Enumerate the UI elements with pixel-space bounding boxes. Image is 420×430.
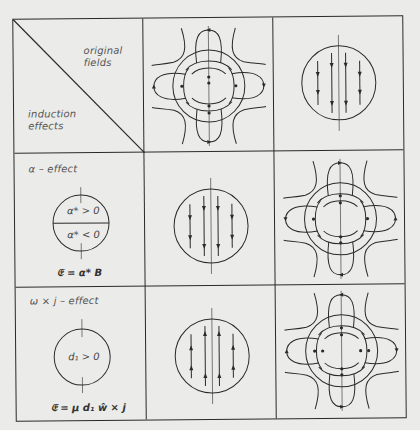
original-fields-label: original fields bbox=[83, 45, 122, 69]
header-uniform-cell bbox=[273, 16, 405, 151]
omega-j-formula: 𝔈 = μ d₁ ŵ × j bbox=[51, 402, 126, 415]
omega-j-uniform-diagram bbox=[146, 285, 277, 420]
original-label-line1: original bbox=[83, 45, 122, 57]
header-quadrupole-cell bbox=[143, 17, 274, 152]
quadrupole-field-diagram bbox=[143, 17, 274, 152]
induction-label-line2: effects bbox=[28, 120, 76, 132]
omega-j-quadrupole-result-cell bbox=[276, 284, 408, 420]
omega-j-effect-cell: ω × j – effect d₁ > 0 𝔈 = μ d₁ ŵ × j bbox=[16, 287, 147, 423]
induction-label-line1: induction bbox=[28, 108, 76, 120]
uniform-field-diagram bbox=[273, 16, 405, 151]
alpha-uniform-diagram bbox=[144, 151, 275, 286]
alpha-quadrupole-result-cell bbox=[274, 150, 406, 285]
induction-effects-label: induction effects bbox=[28, 108, 76, 132]
omega-j-uniform-result-cell bbox=[146, 285, 277, 421]
diagram-page: original fields induction effects bbox=[0, 0, 420, 430]
header-corner-cell: original fields induction effects bbox=[13, 19, 144, 154]
omega-j-quadrupole-diagram bbox=[276, 284, 408, 419]
original-label-line2: fields bbox=[84, 57, 123, 69]
alpha-formula: 𝔈 = α* B bbox=[57, 267, 102, 279]
alpha-effect-cell: α – effect α* > 0 α* < 0 𝔈 = α* B bbox=[14, 153, 145, 288]
alpha-quadrupole-diagram bbox=[274, 150, 406, 285]
alpha-uniform-result-cell bbox=[144, 151, 275, 286]
d1-positive-label: d₁ > 0 bbox=[68, 351, 100, 362]
alpha-negative-label: α* < 0 bbox=[67, 229, 100, 240]
diagonal-line bbox=[13, 19, 144, 154]
alpha-positive-label: α* > 0 bbox=[67, 205, 100, 216]
induction-table: original fields induction effects bbox=[12, 15, 407, 421]
